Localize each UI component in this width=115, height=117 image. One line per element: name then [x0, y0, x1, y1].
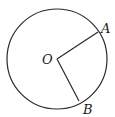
point-label-a: A — [100, 21, 110, 36]
circle-diagram: O A B — [0, 0, 115, 117]
center-label-o: O — [42, 52, 53, 67]
radius-ob — [57, 59, 79, 101]
point-label-b: B — [82, 102, 93, 117]
radius-oa — [57, 32, 98, 59]
